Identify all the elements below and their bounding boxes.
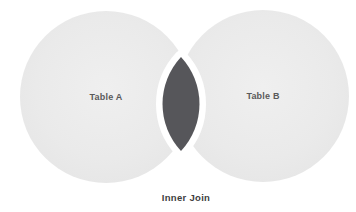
diagram-caption: Inner Join [162,192,210,203]
table-b-label: Table B [177,91,349,101]
table-b-circle: Table B [177,10,349,182]
table-a-circle: Table A [20,11,192,183]
venn-diagram: Table A Table B Inner Join [0,0,356,212]
table-a-label: Table A [20,92,192,102]
